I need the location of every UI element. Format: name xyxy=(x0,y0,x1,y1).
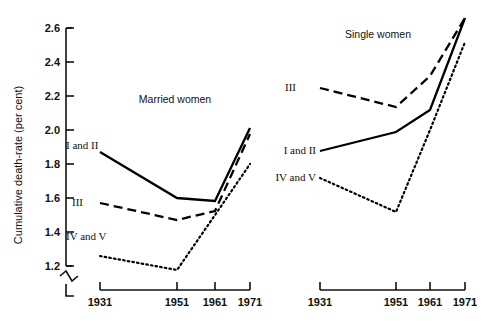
x-tick-label-1971-married: 1971 xyxy=(238,296,262,308)
y-tick-label-1.6: 1.6 xyxy=(45,192,60,204)
panel-title-married: Married women xyxy=(139,93,212,105)
y-axis-break-squiggle xyxy=(60,271,78,281)
series-label-iv-and-v-married: IV and V xyxy=(66,230,107,242)
chart-canvas: 2.6 2.4 2.2 2.0 1.8 1.6 1.4 1.2 Cumulati… xyxy=(0,0,494,329)
series-i-and-ii-married xyxy=(100,128,250,201)
series-label-iii-single: III xyxy=(285,81,296,93)
y-axis-title: Cumulative death-rate (per cent) xyxy=(12,86,24,244)
series-label-iv-and-v-single: IV and V xyxy=(275,171,316,183)
y-tick-label-1.2: 1.2 xyxy=(45,260,60,272)
x-axis-single: 1931 1951 1961 1971 xyxy=(308,282,477,308)
x-tick-label-1931-single: 1931 xyxy=(308,296,332,308)
x-tick-label-1961-married: 1961 xyxy=(203,296,227,308)
series-iv-and-v-single xyxy=(320,42,465,212)
series-label-i-and-ii-single: I and II xyxy=(284,144,317,156)
x-tick-label-1951-married: 1951 xyxy=(165,296,189,308)
y-tick-label-1.8: 1.8 xyxy=(45,158,60,170)
x-tick-label-1961-single: 1961 xyxy=(418,296,442,308)
panel-married-women: Married women I and II III IV and V 1931… xyxy=(66,93,262,308)
y-tick-label-2.4: 2.4 xyxy=(45,56,61,68)
panel-single-women: Single women III I and II IV and V 1931 … xyxy=(275,18,477,308)
y-tick-label-2.0: 2.0 xyxy=(45,124,60,136)
series-label-i-and-ii-married: I and II xyxy=(66,139,99,151)
x-tick-label-1971-single: 1971 xyxy=(453,296,477,308)
y-axis-foot xyxy=(66,284,74,296)
y-tick-label-1.4: 1.4 xyxy=(45,226,61,238)
x-axis-married: 1931 1951 1961 1971 xyxy=(88,282,262,308)
x-tick-label-1931-married: 1931 xyxy=(88,296,112,308)
panel-title-single: Single women xyxy=(345,28,411,40)
y-tick-label-2.2: 2.2 xyxy=(45,90,60,102)
x-tick-label-1951-single: 1951 xyxy=(384,296,408,308)
series-label-iii-married: III xyxy=(72,196,83,208)
chart-figure: 2.6 2.4 2.2 2.0 1.8 1.6 1.4 1.2 Cumulati… xyxy=(0,0,494,329)
y-tick-label-2.6: 2.6 xyxy=(45,22,60,34)
series-iv-and-v-married xyxy=(100,164,250,270)
y-axis: 2.6 2.4 2.2 2.0 1.8 1.6 1.4 1.2 Cumulati… xyxy=(12,22,78,296)
